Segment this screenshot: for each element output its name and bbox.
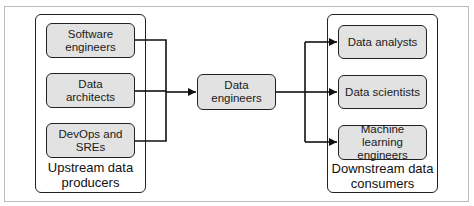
connector-lines (0, 0, 474, 206)
edge-devops-to-center (135, 92, 166, 141)
edge-software-to-center (135, 40, 166, 92)
